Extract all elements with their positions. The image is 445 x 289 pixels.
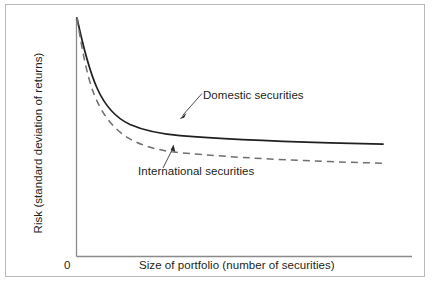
origin-tick-label: 0 — [64, 259, 70, 271]
arrowhead-domestic — [180, 113, 187, 119]
x-axis-label: Size of portfolio (number of securities) — [139, 259, 335, 271]
annotation-domestic-securities: Domestic securities — [203, 89, 304, 101]
leader-line-domestic — [183, 94, 203, 116]
plot-canvas — [0, 0, 445, 289]
annotation-international-securities: International securities — [138, 165, 254, 177]
cut-off-caption-text — [0, 281, 445, 289]
curve-domestic-securities — [77, 18, 383, 144]
y-axis-label: Risk (standard deviation of returns) — [32, 43, 44, 243]
chart-figure: Risk (standard deviation of returns) Siz… — [0, 0, 445, 289]
